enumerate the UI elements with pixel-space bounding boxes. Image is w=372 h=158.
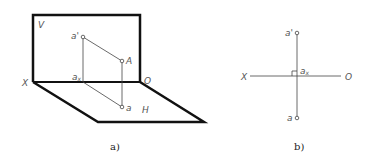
v-plane-frame	[33, 15, 140, 82]
caption-a: a)	[110, 141, 120, 152]
point-a	[120, 105, 124, 109]
projection-diagram: V X O H A a' ax a a) X O a' ax a b)	[0, 0, 372, 158]
label-ax-a: ax	[72, 72, 82, 82]
h-plane-frame	[33, 82, 204, 122]
proj-ax-a	[83, 82, 122, 107]
label-ax-b: ax	[300, 66, 310, 76]
label-A: A	[125, 56, 132, 66]
figure-a: V X O H A a' ax a a)	[21, 15, 204, 152]
caption-b: b)	[294, 141, 304, 152]
label-X-b: X	[240, 72, 248, 82]
right-angle-mark	[292, 71, 297, 76]
label-X-a: X	[21, 78, 29, 88]
label-a-a: a	[126, 103, 132, 113]
label-O-b: O	[345, 72, 352, 82]
point-a-prime-b	[295, 31, 299, 35]
label-a-prime-a: a'	[71, 31, 79, 41]
label-H: H	[142, 105, 149, 115]
label-a-prime-b: a'	[285, 28, 293, 38]
label-V: V	[38, 20, 45, 30]
proj-aprime-A	[83, 37, 122, 61]
label-a-b: a	[287, 113, 293, 123]
point-A	[120, 59, 124, 63]
label-O-a: O	[144, 76, 151, 86]
figure-b: X O a' ax a b)	[240, 28, 352, 152]
point-a-b	[295, 116, 299, 120]
point-a-prime	[81, 35, 85, 39]
